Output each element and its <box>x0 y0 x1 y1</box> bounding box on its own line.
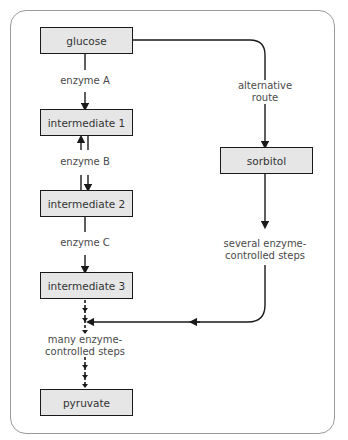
node-sorbitol: sorbitol <box>220 147 313 174</box>
node-intermediate-1: intermediate 1 <box>40 109 133 136</box>
label-many-steps: many enzyme- controlled steps <box>35 334 135 358</box>
connector-lines <box>0 0 348 440</box>
label-alternative-line2: route <box>225 92 305 104</box>
label-several-steps: several enzyme- controlled steps <box>215 238 315 262</box>
node-glucose: glucose <box>40 27 133 54</box>
label-many-line1: many enzyme- <box>35 334 135 346</box>
node-intermediate-2: intermediate 2 <box>40 190 133 217</box>
label-enzyme-c: enzyme C <box>55 237 115 249</box>
node-intermediate-3: intermediate 3 <box>40 272 133 299</box>
label-alternative-route: alternative route <box>225 80 305 104</box>
label-alternative-line1: alternative <box>225 80 305 92</box>
label-enzyme-a: enzyme A <box>55 75 115 87</box>
label-enzyme-b: enzyme B <box>55 156 115 168</box>
label-several-line2: controlled steps <box>215 250 315 262</box>
node-pyruvate: pyruvate <box>40 389 133 416</box>
label-several-line1: several enzyme- <box>215 238 315 250</box>
label-many-line2: controlled steps <box>35 346 135 358</box>
